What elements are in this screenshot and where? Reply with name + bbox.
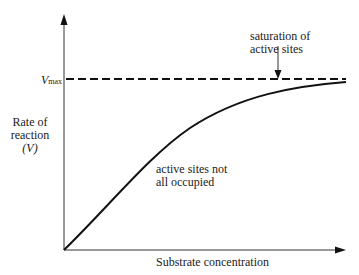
saturation-arrow-icon bbox=[275, 70, 282, 79]
active-sites-annotation: active sites not all occupied bbox=[156, 163, 227, 189]
saturation-annotation: saturation of active sites bbox=[250, 30, 310, 56]
y-label-line3: (V) bbox=[6, 142, 54, 155]
x-axis-label: Substrate concentration bbox=[156, 256, 269, 269]
saturation-line2: active sites bbox=[250, 43, 310, 56]
y-axis-arrow-icon bbox=[61, 14, 68, 25]
vmax-label: Vmax bbox=[41, 74, 62, 88]
x-axis-arrow-icon bbox=[335, 247, 346, 254]
y-axis-label: Rate of reaction (V) bbox=[6, 116, 54, 155]
active-line2: all occupied bbox=[156, 176, 227, 189]
vmax-sub: max bbox=[48, 77, 62, 86]
